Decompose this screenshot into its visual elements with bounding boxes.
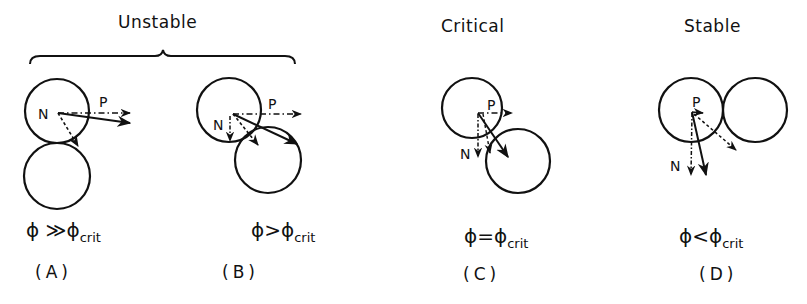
panel-b-id: (B) (222, 262, 259, 282)
header-unstable: Unstable (118, 12, 197, 32)
panel-d-p-label: P (692, 94, 700, 110)
panel-c-p-label: P (487, 97, 495, 113)
panel-c-id: (C) (463, 264, 500, 284)
panel-d-condition: ϕ<ϕcrit (679, 224, 743, 251)
panel-d-id: (D) (699, 264, 737, 284)
stability-diagram: Unstable Critical Stable P N P N P N P N… (0, 0, 807, 304)
panel-b-p-label: P (268, 96, 276, 112)
panel-a-condition: ϕ ≫ϕcrit (26, 218, 101, 245)
panel-d-n-label: N (670, 158, 680, 174)
panel-b-n-label: N (213, 117, 223, 133)
panel-a-n-label: N (38, 106, 48, 122)
unstable-brace (30, 50, 295, 64)
panel-b-graphic (197, 78, 301, 193)
panel-a-graphic (24, 79, 130, 209)
diagram-graphics (0, 0, 807, 304)
header-stable: Stable (684, 16, 741, 36)
header-critical: Critical (441, 16, 504, 36)
panel-c-graphic (442, 78, 550, 193)
panel-b-condition: ϕ>ϕcrit (251, 218, 315, 245)
panel-c-n-label: N (460, 146, 470, 162)
panel-a-id: (A) (35, 262, 72, 282)
panel-a-p-label: P (99, 94, 107, 110)
panel-c-condition: ϕ=ϕcrit (464, 224, 528, 251)
